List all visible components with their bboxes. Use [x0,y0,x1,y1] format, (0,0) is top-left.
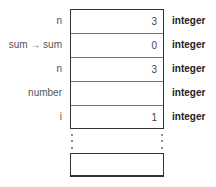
memory-stack: 3 0 3 1 [70,9,164,129]
dot [161,134,163,136]
memory-stack-tail-cell [70,153,164,177]
dot [71,140,73,142]
memory-cell-sum: 0 [71,34,163,58]
row-type-sum: integer [172,33,205,57]
row-label-sum: sum → sum [0,33,62,57]
memory-cell-i: 1 [71,106,163,130]
row-label-n-2: n [0,57,62,81]
row-type-number: integer [172,81,205,105]
dot [71,134,73,136]
row-label-n-1: n [0,9,62,33]
dot [71,147,73,149]
dot [161,147,163,149]
memory-cell-n-1: 3 [71,10,163,34]
row-type-i: integer [172,105,205,129]
dot [161,140,163,142]
row-label-i: i [0,105,62,129]
row-label-number: number [0,81,62,105]
memory-cell-number [71,82,163,106]
memory-cell-n-2: 3 [71,58,163,82]
row-type-n-1: integer [172,9,205,33]
row-type-n-2: integer [172,57,205,81]
